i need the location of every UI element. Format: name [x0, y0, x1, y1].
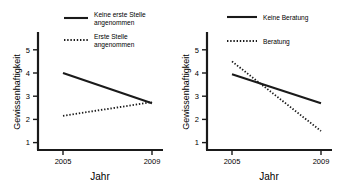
y-tick-label-4: 4: [26, 69, 30, 78]
x-axis-title: Jahr: [90, 171, 110, 182]
y-axis-title: Gewissenhaftigkeit: [181, 54, 191, 130]
series-line-erste-stelle: [63, 102, 152, 116]
series-line-beratung: [232, 61, 321, 131]
y-tick-label-4: 4: [195, 69, 199, 78]
left-panel: 1 2 3 4 5 2005 2009 Jahr Gewissenhaftigk…: [0, 0, 169, 186]
right-panel: 1 2 3 4 5 2005 2009 Jahr Gewissenhaftigk…: [169, 0, 338, 186]
y-tick-label-1: 1: [26, 138, 30, 147]
x-tick-label-2009: 2009: [144, 157, 161, 166]
y-tick-label-3: 3: [195, 92, 199, 101]
y-tick-label-5: 5: [26, 46, 30, 55]
legend-label-dotted: Beratung: [263, 38, 290, 46]
x-tick-label-2009: 2009: [313, 157, 330, 166]
x-axis-title: Jahr: [259, 171, 279, 182]
x-tick-label-2005: 2005: [55, 157, 72, 166]
right-panel-plot: 1 2 3 4 5 2005 2009 Jahr Gewissenhaftigk…: [169, 0, 338, 186]
y-tick-label-2: 2: [195, 115, 199, 124]
two-panel-line-chart-figure: 1 2 3 4 5 2005 2009 Jahr Gewissenhaftigk…: [0, 0, 338, 186]
series-line-keine-beratung: [232, 74, 321, 103]
legend-label-solid-line1: Keine erste Stelle: [94, 11, 146, 18]
legend-label-dotted-line2: angenommen: [94, 41, 135, 49]
x-tick-label-2005: 2005: [224, 157, 241, 166]
y-axis-title: Gewissenhaftigkeit: [12, 54, 22, 130]
legend-label-solid: Keine Beratung: [263, 14, 309, 22]
left-panel-plot: 1 2 3 4 5 2005 2009 Jahr Gewissenhaftigk…: [0, 0, 169, 186]
y-tick-label-5: 5: [195, 46, 199, 55]
legend-label-dotted-line1: Erste Stelle: [94, 33, 128, 40]
y-tick-label-1: 1: [195, 138, 199, 147]
y-tick-label-2: 2: [26, 115, 30, 124]
legend-label-solid-line2: angenommen: [94, 19, 135, 27]
y-tick-label-3: 3: [26, 92, 30, 101]
series-line-keine-erste-stelle: [63, 73, 152, 103]
